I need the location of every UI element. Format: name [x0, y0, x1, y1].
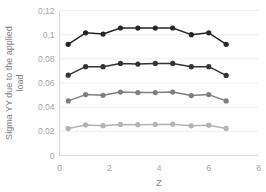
series-marker [118, 25, 123, 30]
y-axis-title: Sigma YY due to the appliedload [4, 26, 25, 140]
series-marker [83, 64, 88, 69]
series-marker [206, 64, 211, 69]
series-marker [224, 126, 229, 131]
x-axis-title: Z [156, 178, 162, 188]
series-marker [206, 123, 211, 128]
series-marker [118, 89, 123, 94]
series-marker [153, 25, 158, 30]
series-marker [135, 25, 140, 30]
series-marker [170, 122, 175, 127]
chart-container: 00,020,040,060,080,10,12 02468 Z Sigma Y… [0, 0, 266, 192]
series-marker [224, 73, 229, 78]
x-tick-label: 8 [256, 163, 261, 173]
series-line [68, 92, 226, 101]
y-tick-label: 0,08 [38, 54, 55, 64]
y-tick-label: 0,1 [43, 30, 55, 40]
y-tick-label: 0,04 [38, 102, 55, 112]
series-marker [170, 89, 175, 94]
series-marker [66, 98, 71, 103]
series-marker [66, 126, 71, 131]
series-marker [170, 25, 175, 30]
series-marker [135, 122, 140, 127]
y-axis-title-text: Sigma YY due to the applied [4, 26, 14, 140]
chart-gridlines [60, 11, 259, 156]
series-marker [189, 123, 194, 128]
x-tick-label: 0 [57, 163, 62, 173]
series-marker [189, 32, 194, 37]
data-series [66, 61, 229, 78]
series-marker [100, 93, 105, 98]
data-series [66, 122, 229, 132]
x-tick-label: 4 [157, 163, 162, 173]
series-marker [66, 42, 71, 47]
chart-series-group [66, 25, 229, 131]
series-line [68, 63, 226, 75]
y-axis-title-text: load [15, 74, 25, 91]
series-marker [224, 98, 229, 103]
series-marker [189, 93, 194, 98]
series-marker [83, 30, 88, 35]
x-axis-title-text: Z [156, 178, 162, 188]
series-line [68, 28, 226, 44]
series-marker [206, 92, 211, 97]
series-marker [135, 90, 140, 95]
series-line [68, 124, 226, 128]
series-marker [100, 64, 105, 69]
series-marker [66, 73, 71, 78]
series-marker [206, 30, 211, 35]
data-series [66, 89, 229, 103]
series-marker [153, 122, 158, 127]
series-marker [100, 123, 105, 128]
series-marker [153, 61, 158, 66]
y-tick-label: 0,12 [38, 6, 55, 16]
series-marker [83, 122, 88, 127]
series-marker [224, 42, 229, 47]
y-tick-label: 0,02 [38, 126, 55, 136]
line-chart: 00,020,040,060,080,10,12 02468 Z Sigma Y… [0, 0, 266, 192]
y-tick-label: 0 [50, 151, 55, 161]
data-series [66, 25, 229, 47]
series-marker [100, 31, 105, 36]
series-marker [83, 92, 88, 97]
series-marker [118, 61, 123, 66]
series-marker [153, 90, 158, 95]
y-axis-tick-labels: 00,020,040,060,080,10,12 [38, 6, 55, 161]
y-tick-label: 0,06 [38, 78, 55, 88]
x-axis-tick-labels: 02468 [57, 163, 261, 173]
x-tick-label: 6 [206, 163, 211, 173]
series-marker [135, 61, 140, 66]
x-tick-label: 2 [107, 163, 112, 173]
series-marker [189, 64, 194, 69]
series-marker [118, 122, 123, 127]
series-marker [170, 61, 175, 66]
